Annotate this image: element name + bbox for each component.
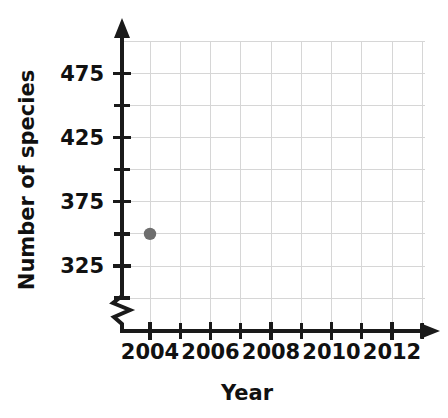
- y-axis-tick-labels: 475425375325: [60, 62, 104, 279]
- y-axis-arrowhead: [114, 18, 130, 38]
- data-point-series: [144, 228, 156, 240]
- x-axis-tick-labels: 20042006200820102012: [121, 340, 421, 364]
- vertical-gridlines: [150, 42, 422, 329]
- x-axis-title: Year: [220, 381, 274, 405]
- y-axis-title: Number of species: [15, 70, 39, 290]
- chart-canvas: 475425375325 20042006200820102012 Year N…: [0, 0, 448, 418]
- y-axis-tick-label: 475: [60, 62, 104, 86]
- y-axis-tick-label: 375: [60, 190, 104, 214]
- horizontal-gridlines: [122, 41, 425, 298]
- y-axis-break-symbol: [113, 296, 130, 332]
- x-axis-tick-label: 2012: [363, 340, 421, 364]
- x-axis-tick-label: 2008: [242, 340, 300, 364]
- y-axis-tick-label: 325: [60, 254, 104, 278]
- x-axis-tick-label: 2004: [121, 340, 179, 364]
- y-axis-tick-label: 425: [60, 126, 104, 150]
- x-axis-tick-label: 2006: [181, 340, 239, 364]
- x-axis-tick-label: 2010: [302, 340, 360, 364]
- data-point: [144, 228, 156, 240]
- scatter-chart: 475425375325 20042006200820102012 Year N…: [0, 0, 448, 418]
